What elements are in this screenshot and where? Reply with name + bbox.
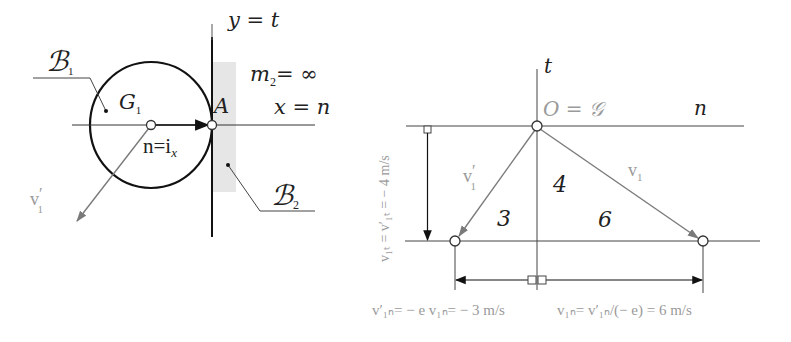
segment-label-6: 6 xyxy=(598,207,612,232)
n-axis-label: n xyxy=(694,96,707,120)
contact-a-label: A xyxy=(212,94,229,118)
y-axis-label: y = t xyxy=(227,8,280,32)
dim-box-left xyxy=(528,276,536,284)
contact-point-a xyxy=(208,121,217,130)
tangential-velocity-label: v₁ₜ = v′₁ₜ = − 4 m/s xyxy=(377,155,392,262)
x-axis-label: x = n xyxy=(274,95,330,119)
origin-label: O = 𝒢 xyxy=(543,97,607,121)
right-bottom-label: v₁ₙ= v′₁ₙ/(− e) = 6 m/s xyxy=(557,302,692,319)
velocity-v1-prime-label: v′1 xyxy=(30,185,43,215)
left-bottom-label: v′₁ₙ= − e v₁ₙ= − 3 m/s xyxy=(372,302,505,318)
impact-diagram: ℬ1 ℬ2 G1 A n=ix y = t x = n m2= ∞ v′1 xyxy=(0,0,791,342)
velocity-v1-prime-arrow xyxy=(77,128,149,221)
v1-tip-point xyxy=(698,236,708,246)
origin-point xyxy=(532,121,542,131)
center-g1-label: G1 xyxy=(119,90,141,116)
t-axis-label: t xyxy=(544,54,553,78)
normal-label: n=ix xyxy=(143,134,177,160)
mass-label: m2= ∞ xyxy=(250,62,318,89)
dim-box-right xyxy=(538,276,546,284)
body2-label: ℬ2 xyxy=(271,179,299,212)
center-g1-point xyxy=(147,121,156,130)
dim-box-top xyxy=(424,126,431,133)
segment-label-4: 4 xyxy=(552,172,567,197)
v1-prime-tip-point xyxy=(450,236,460,246)
right-diagram: t n O = 𝒢 v′1 v1 3 4 6 v₁ₜ = v′₁ₜ = − 4 … xyxy=(372,54,760,319)
v1-prime-label: v′1 xyxy=(463,162,476,192)
body1-label: ℬ1 xyxy=(46,45,74,78)
b2-leader-dot xyxy=(226,163,230,167)
left-diagram: ℬ1 ℬ2 G1 A n=ix y = t x = n m2= ∞ v′1 xyxy=(30,8,330,237)
b1-leader-dot xyxy=(104,109,108,113)
segment-label-3: 3 xyxy=(497,206,511,231)
b1-leader-line xyxy=(33,78,106,111)
v1-label: v1 xyxy=(628,160,643,183)
